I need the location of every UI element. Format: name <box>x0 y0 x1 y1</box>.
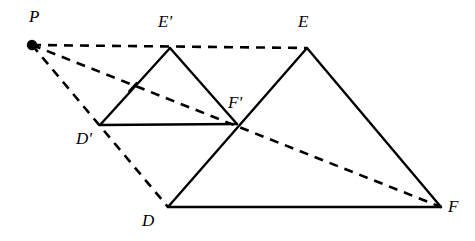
vertex-label-e: E <box>298 13 308 30</box>
dashed-rays-group <box>32 45 441 207</box>
edge-D-E <box>168 48 307 207</box>
point-dots-group <box>27 40 37 50</box>
solid-edges-group <box>100 48 441 207</box>
vertex-label-f: F <box>448 198 458 215</box>
point-dot-p <box>27 40 37 50</box>
vertex-label-fprime: F' <box>228 94 242 111</box>
vertex-label-eprime: E' <box>158 13 172 30</box>
geometry-diagram: PD'E'F'DEF <box>0 0 475 241</box>
ray-P-Fprime-F <box>32 45 441 207</box>
edge-Dprime-Fprime <box>100 124 237 125</box>
edge-Dprime-Eprime <box>100 48 170 125</box>
vertex-label-dprime: D' <box>76 130 92 147</box>
geometry-canvas <box>0 0 475 241</box>
vertex-label-d: D <box>142 212 154 229</box>
vertex-label-p: P <box>29 8 39 25</box>
edge-E-F <box>307 48 441 207</box>
